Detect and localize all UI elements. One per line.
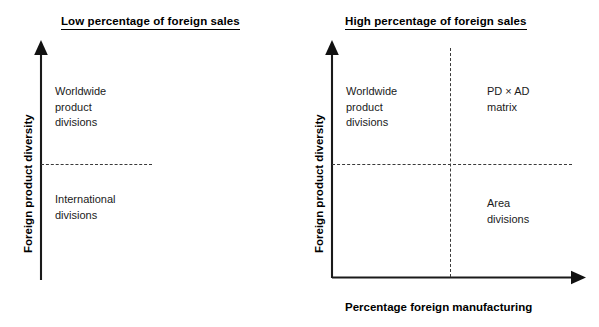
quadrant-label-worldwide-product-divisions-right: Worldwide product divisions	[346, 84, 397, 131]
quadrant-line: divisions	[346, 115, 397, 131]
quadrant-line: product	[346, 100, 397, 116]
quadrant-line: divisions	[55, 115, 106, 131]
x-axis-label-right: Percentage foreign manufacturing	[345, 301, 532, 313]
y-axis-label-left: Foreign product diversity	[22, 114, 34, 253]
quadrant-line: Area	[487, 196, 529, 212]
horizontal-divider-right	[332, 164, 572, 165]
y-axis-label-right: Foreign product diversity	[313, 114, 325, 253]
quadrant-label-worldwide-product-divisions-left: Worldwide product divisions	[55, 84, 106, 131]
quadrant-line: matrix	[487, 100, 530, 116]
quadrant-line: divisions	[487, 212, 529, 228]
diagram-canvas: Low percentage of foreign sales Foreign …	[0, 0, 599, 327]
quadrant-line: Worldwide	[346, 84, 397, 100]
quadrant-label-international-divisions: International divisions	[55, 192, 116, 223]
vertical-divider-right	[450, 48, 451, 277]
quadrant-line: PD × AD	[487, 84, 530, 100]
x-axis-right	[330, 268, 588, 288]
panel-title-high-foreign-sales: High percentage of foreign sales	[345, 15, 527, 30]
quadrant-line: Worldwide	[55, 84, 106, 100]
panel-title-low-foreign-sales: Low percentage of foreign sales	[61, 15, 240, 30]
quadrant-line: divisions	[55, 208, 116, 224]
quadrant-label-pd-ad-matrix: PD × AD matrix	[487, 84, 530, 115]
horizontal-divider-left	[41, 164, 152, 165]
quadrant-line: product	[55, 100, 106, 116]
quadrant-label-area-divisions: Area divisions	[487, 196, 529, 227]
quadrant-line: International	[55, 192, 116, 208]
